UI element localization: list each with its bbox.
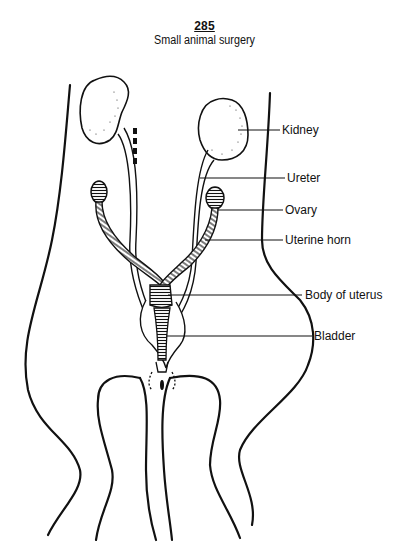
label-kidney: Kidney <box>282 123 319 137</box>
vulva <box>160 380 164 390</box>
body-outline-right <box>239 93 313 525</box>
body-of-uterus <box>150 285 172 307</box>
label-uterine-horn: Uterine horn <box>285 233 351 247</box>
label-ureter: Ureter <box>287 171 320 185</box>
right-ovary <box>206 187 224 209</box>
left-ovary <box>91 181 107 203</box>
left-kidney <box>80 77 128 144</box>
body-outline-left <box>25 85 80 535</box>
right-hind-leg <box>170 376 240 538</box>
anatomy-figure <box>0 0 409 557</box>
right-kidney <box>199 99 248 161</box>
label-bladder: Bladder <box>314 329 355 343</box>
right-uterine-horn <box>160 208 218 288</box>
label-ovary: Ovary <box>285 203 317 217</box>
left-hind-leg <box>96 376 140 540</box>
label-body-of-uterus: Body of uterus <box>305 288 382 302</box>
